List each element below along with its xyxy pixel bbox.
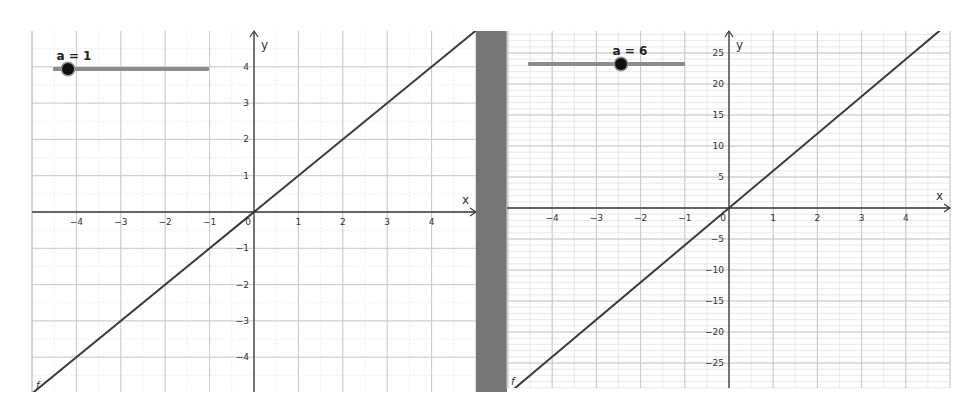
x-tick-label: 2: [815, 213, 821, 223]
x-tick-label: −2: [634, 213, 647, 223]
y-axis-label: y: [736, 38, 743, 52]
y-tick-label: −5: [711, 234, 724, 244]
y-tick-label: −10: [705, 265, 724, 275]
y-tick-label: 5: [718, 172, 724, 182]
slider-track-left[interactable]: [53, 67, 209, 71]
graph-right: xy−4−3−2−112340−25−20−15−10−5510152025f: [507, 22, 950, 394]
x-tick-label: −3: [590, 213, 603, 223]
x-tick-label: −1: [678, 213, 691, 223]
slider-track-right[interactable]: [528, 62, 685, 66]
slider-label-right: a = 6: [613, 44, 648, 58]
graphics-view-right[interactable]: xy−4−3−2−112340−25−20−15−10−5510152025f: [0, 0, 975, 410]
y-tick-label: 10: [713, 141, 725, 151]
x-axis-label: x: [936, 189, 943, 203]
x-tick-label: 3: [859, 213, 865, 223]
graph-comparison-view: xy−4−3−2−112340−4−3−2−11234f xy−4−3−2−11…: [0, 0, 975, 410]
y-tick-label: −25: [705, 358, 724, 368]
slider-knob-left[interactable]: [62, 63, 74, 75]
y-tick-label: 15: [713, 110, 724, 120]
x-tick-label: 1: [770, 213, 776, 223]
y-tick-label: −15: [705, 296, 724, 306]
y-tick-label: 20: [713, 79, 725, 89]
y-tick-label: −20: [705, 327, 724, 337]
slider-label-left: a = 1: [57, 49, 92, 63]
x-tick-label: −4: [546, 213, 560, 223]
y-tick-label: 25: [713, 48, 724, 58]
x-tick-label: 4: [903, 213, 909, 223]
slider-knob-right[interactable]: [615, 58, 627, 70]
